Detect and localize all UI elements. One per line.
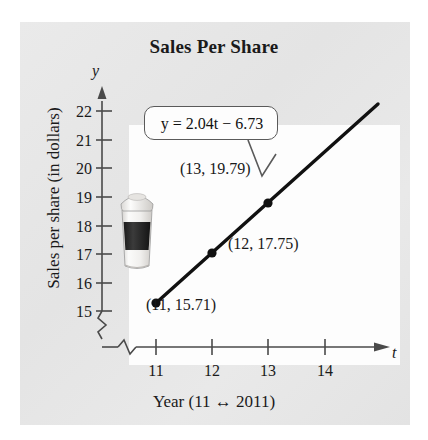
y-tick-marks <box>96 111 112 311</box>
x-axis-arrowhead <box>374 343 390 352</box>
equation-callout: y = 2.04t − 6.73 <box>144 106 278 140</box>
figure-container: Sales Per Share Sales per share (in doll… <box>0 0 428 440</box>
y-axis <box>98 86 107 339</box>
y-axis-arrowhead <box>98 86 107 99</box>
data-point-marker <box>207 248 216 257</box>
data-point-label: (11, 15.71) <box>146 296 216 314</box>
equation-text: y = 2.04t − 6.73 <box>145 107 279 141</box>
coffee-cup-icon <box>115 186 159 272</box>
data-point-label: (13, 19.79) <box>180 160 251 178</box>
x-axis <box>102 340 390 354</box>
data-point-marker <box>263 198 272 207</box>
callout-tail <box>248 140 276 176</box>
data-point-label: (12, 17.75) <box>228 235 299 253</box>
chart-vector-layer <box>0 0 428 440</box>
